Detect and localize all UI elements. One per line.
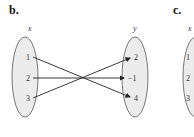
arrow-1-to-4	[33, 57, 130, 97]
panel-c-domain-label: x	[187, 24, 192, 33]
panel-c-value-2: 2	[186, 74, 190, 83]
panel-c-value-1: 1	[186, 53, 190, 62]
domain-value-3: 3	[26, 94, 30, 103]
range-value-2: 2	[134, 53, 138, 62]
domain-label-x: x	[27, 24, 32, 33]
domain-value-2: 2	[26, 74, 30, 83]
domain-oval	[12, 37, 38, 117]
panel-c-value-3: 3	[186, 94, 190, 103]
mapping-diagram: x y 1 2 3 2 −1 4 x 1 2 3	[0, 0, 194, 137]
range-value-neg1: −1	[128, 74, 137, 83]
range-value-4: 4	[134, 94, 138, 103]
domain-value-1: 1	[26, 53, 30, 62]
range-label-y: y	[132, 24, 137, 33]
